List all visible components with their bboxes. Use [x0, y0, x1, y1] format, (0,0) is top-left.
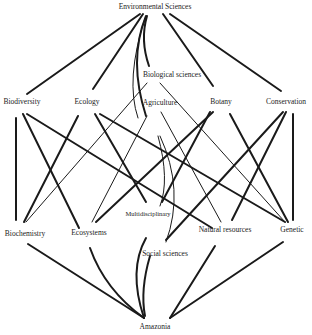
edge — [170, 14, 281, 91]
node-genetic: Genetic — [280, 226, 303, 234]
node-biological-sciences: Biological sciences — [143, 71, 201, 79]
network-diagram — [0, 0, 312, 335]
node-amazonia: Amazonia — [140, 323, 171, 331]
edge — [95, 114, 146, 202]
node-agriculture: Agriculture — [143, 99, 178, 107]
edge — [28, 244, 144, 318]
node-ecosystems: Ecosystems — [71, 229, 106, 237]
node-ecology: Ecology — [75, 98, 100, 106]
node-biochemistry: Biochemistry — [5, 230, 45, 238]
node-biodiversity: Biodiversity — [3, 98, 40, 106]
edge — [93, 14, 143, 89]
node-social-sciences: Social sciences — [142, 250, 188, 258]
edge — [27, 114, 212, 228]
node-environmental-sciences: Environmental Sciences — [119, 3, 192, 11]
edge — [161, 112, 221, 222]
node-botany: Botany — [210, 98, 232, 106]
edge — [144, 16, 149, 66]
node-natural-resources: Natural resources — [199, 226, 252, 234]
edge — [27, 14, 140, 94]
edge — [92, 116, 147, 222]
node-conservation: Conservation — [266, 98, 306, 106]
edge — [166, 112, 283, 240]
node-multidisciplinary: Multidisciplinary — [125, 211, 170, 218]
edge — [143, 256, 150, 316]
